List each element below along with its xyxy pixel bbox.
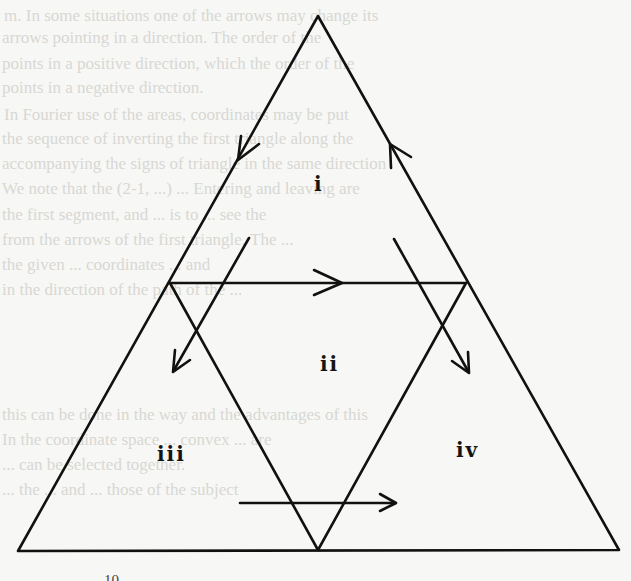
inner-v	[170, 283, 466, 550]
region-label-i: i	[314, 174, 324, 194]
page-number: 10	[104, 573, 119, 581]
region-label-ii: ii	[320, 354, 339, 374]
left-diagonal-arrowhead-icon	[173, 350, 190, 372]
region-label-iv: iv	[456, 440, 479, 460]
region-label-iii: iii	[157, 444, 186, 464]
page: m. In some situations one of the arrows …	[0, 0, 631, 581]
left-diagonal-arrow-shaft	[174, 238, 249, 370]
right-diagonal-arrow-shaft	[394, 239, 468, 371]
triangle-diagram	[0, 0, 631, 581]
